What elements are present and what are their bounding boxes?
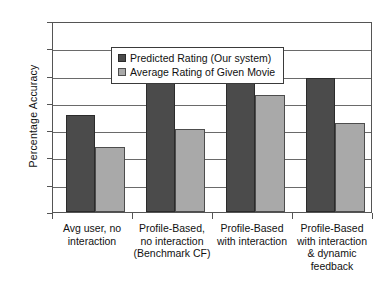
- bar-1-3: [335, 123, 365, 212]
- bar-0-3: [306, 78, 336, 212]
- legend-swatch-icon-predicted-rating: [118, 54, 126, 62]
- bar-1-2: [255, 95, 285, 212]
- x-axis-tick-mark: [52, 213, 53, 219]
- x-axis-label-3: Profile-Basedwith interaction& dynamicfe…: [288, 222, 376, 272]
- legend-label-average-rating: Average Rating of Given Movie: [130, 66, 275, 78]
- bar-1-0: [95, 147, 125, 212]
- bar-0-0: [66, 115, 96, 212]
- y-axis-title: Percentage Accuracy: [27, 21, 39, 211]
- chart-legend: Predicted Rating (Our system) Average Ra…: [111, 47, 284, 84]
- x-axis-tick-mark: [212, 213, 213, 219]
- bar-chart: Percentage Accuracy 8483828180797877 Pre…: [0, 0, 380, 301]
- legend-item-predicted-rating: Predicted Rating (Our system): [118, 51, 275, 65]
- legend-label-predicted-rating: Predicted Rating (Our system): [130, 52, 271, 64]
- x-axis-tick-mark: [132, 213, 133, 219]
- x-axis-tick-mark: [292, 213, 293, 219]
- x-axis-label-2: Profile-Basedwith interaction: [208, 222, 296, 247]
- legend-item-average-rating: Average Rating of Given Movie: [118, 65, 275, 79]
- x-axis-tick-mark: [372, 213, 373, 219]
- x-axis-label-1: Profile-Based,no interaction(Benchmark C…: [128, 222, 216, 260]
- legend-swatch-icon-average-rating: [118, 68, 126, 76]
- bar-1-1: [175, 129, 205, 212]
- plot-area: Predicted Rating (Our system) Average Ra…: [52, 22, 372, 213]
- x-axis-label-0: Avg user, nointeraction: [48, 222, 136, 247]
- bar-0-1: [146, 76, 176, 212]
